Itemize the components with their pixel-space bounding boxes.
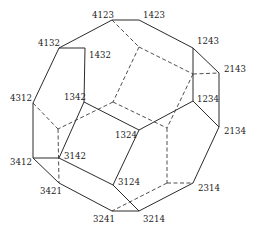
permutohedron-diagram: 4123 1423 4132 1432 1243 2143 4312 1342 … <box>0 0 253 232</box>
vertex-labels: 4123 1423 4132 1432 1243 2143 4312 1342 … <box>10 10 246 224</box>
label-2314: 2314 <box>198 183 220 193</box>
label-4123: 4123 <box>92 10 114 20</box>
label-3412: 3412 <box>10 157 32 167</box>
label-1432: 1432 <box>89 50 111 60</box>
label-1423: 1423 <box>143 10 165 20</box>
label-3124: 3124 <box>118 177 140 187</box>
label-1243: 1243 <box>197 36 219 46</box>
label-4312: 4312 <box>10 93 32 103</box>
label-2143: 2143 <box>224 64 246 74</box>
label-3421: 3421 <box>40 186 62 196</box>
label-2134: 2134 <box>224 126 246 136</box>
label-1234: 1234 <box>197 94 219 104</box>
label-3214: 3214 <box>143 214 165 224</box>
label-1342: 1342 <box>64 92 86 102</box>
label-1324: 1324 <box>115 130 137 140</box>
label-3142: 3142 <box>64 151 86 161</box>
label-4132: 4132 <box>38 38 60 48</box>
label-3241: 3241 <box>93 214 115 224</box>
